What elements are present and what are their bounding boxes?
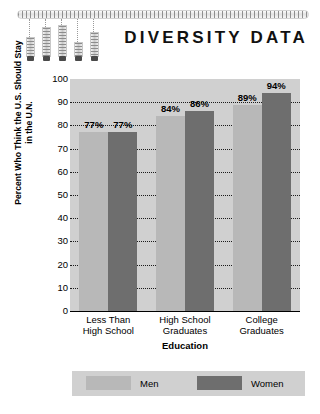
bar-women-0 bbox=[108, 132, 137, 311]
bar-value-label: 77% bbox=[82, 120, 106, 130]
bar-value-label: 89% bbox=[235, 93, 259, 103]
decorative-slider-guide bbox=[77, 19, 78, 42]
bar-women-2 bbox=[262, 93, 291, 311]
x-axis-category-label: CollegeGraduates bbox=[223, 314, 300, 336]
bar-value-label: 86% bbox=[188, 99, 212, 109]
decorative-slider-guide bbox=[93, 19, 94, 32]
legend-swatch bbox=[197, 376, 242, 390]
legend-item-women: Women bbox=[197, 376, 284, 390]
decorative-slider bbox=[90, 19, 99, 61]
decorative-slider-track bbox=[90, 32, 99, 57]
decorative-slider-knob bbox=[75, 56, 82, 61]
decorative-slider bbox=[74, 19, 83, 61]
decorative-slider-guide bbox=[29, 19, 30, 37]
bar-men-2 bbox=[233, 105, 262, 311]
x-axis-title: Education bbox=[70, 340, 300, 351]
y-axis-tick-label: 40 bbox=[26, 213, 68, 223]
decorative-slider bbox=[58, 19, 67, 61]
bar-value-label: 77% bbox=[111, 120, 135, 130]
decorative-slider-track bbox=[58, 25, 67, 57]
bar-men-0 bbox=[79, 132, 108, 311]
legend-label: Women bbox=[251, 378, 284, 389]
legend-label: Men bbox=[140, 378, 158, 389]
page-title: DIVERSITY DATA bbox=[124, 28, 308, 48]
decorative-ruled-bar bbox=[17, 10, 309, 19]
bar-value-label: 84% bbox=[159, 104, 183, 114]
bar-women-1 bbox=[185, 111, 214, 311]
x-axis-category-label: High SchoolGraduates bbox=[147, 314, 224, 336]
decorative-slider bbox=[42, 19, 51, 61]
decorative-slider-track bbox=[74, 42, 83, 57]
plot-area: 77%77%84%86%89%94% bbox=[70, 79, 300, 311]
x-axis-line bbox=[70, 311, 300, 312]
legend-swatch bbox=[86, 376, 131, 390]
y-axis-tick-label: 20 bbox=[26, 260, 68, 270]
decorative-slider-group bbox=[26, 19, 106, 61]
decorative-slider-knob bbox=[43, 56, 50, 61]
legend-item-men: Men bbox=[86, 376, 158, 390]
decorative-slider-knob bbox=[59, 56, 66, 61]
decorative-slider-guide bbox=[45, 19, 46, 27]
y-axis-tick-label: 0 bbox=[26, 306, 68, 316]
legend: MenWomen bbox=[72, 371, 305, 396]
y-axis-tick-label: 30 bbox=[26, 236, 68, 246]
bar-men-1 bbox=[156, 116, 185, 311]
decorative-slider-knob bbox=[91, 56, 98, 61]
bar-value-label: 94% bbox=[264, 81, 288, 91]
decorative-slider-track bbox=[42, 27, 51, 57]
y-axis-title: Percent Who Think the U.S. Should Stay i… bbox=[13, 38, 34, 208]
x-axis-category-label: Less ThanHigh School bbox=[70, 314, 147, 336]
y-axis-tick-label: 10 bbox=[26, 283, 68, 293]
